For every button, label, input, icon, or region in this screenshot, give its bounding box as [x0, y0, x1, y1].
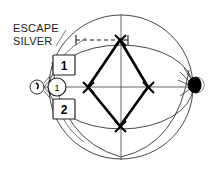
label-escape: ESCAPE [13, 22, 59, 34]
transfer-orbit-diamond [88, 40, 148, 126]
callout-box-one-label: 1 [61, 59, 68, 73]
right-body-sphere [178, 68, 204, 96]
label-silver: SILVER [13, 35, 53, 47]
vertex-marker-left [83, 82, 94, 93]
callout-box-one[interactable]: 1 [53, 55, 75, 75]
callout-circle-one-label: 1 [54, 83, 59, 93]
callout-box-two-label: 2 [61, 103, 68, 117]
vertex-marker-right [143, 82, 154, 93]
leader-line-box-one [63, 38, 86, 56]
callout-circle-one[interactable]: 1 [48, 78, 66, 96]
callout-box-two[interactable]: 2 [53, 99, 75, 119]
vertex-marker-bottom [115, 121, 126, 132]
diagram-canvas: 1 1 2 ESCAPE SILVER [0, 0, 212, 174]
escape-silver-diagram: 1 1 2 ESCAPE SILVER [0, 0, 212, 174]
